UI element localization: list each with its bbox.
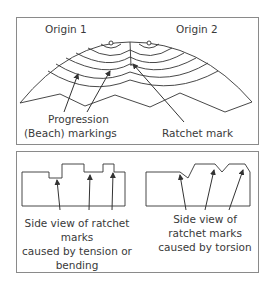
tension-label-3: caused by tension or	[22, 245, 132, 257]
tension-label-1: Side view of ratchet	[25, 217, 130, 229]
tension-arrow-3	[112, 173, 113, 210]
ratchet-line	[130, 42, 131, 66]
origin-1-marker	[109, 41, 113, 45]
torsion-arrow-3	[229, 170, 243, 210]
progression-label-line1: Progression	[48, 113, 109, 125]
bottom-panel: Side view of ratchet marks caused by ten…	[17, 152, 259, 273]
progression-label-line2: (Beach) markings	[24, 127, 117, 139]
beach-marks-origin-2	[130, 44, 196, 70]
fracture-surface-outline	[20, 42, 252, 112]
progression-arrow-1	[64, 74, 78, 112]
top-panel: Origin 1 Origin 2 Progression	[17, 18, 259, 145]
torsion-arrow-2	[205, 170, 214, 210]
ratchet-label: Ratchet mark	[162, 127, 234, 139]
tension-label-2: marks	[61, 231, 94, 243]
torsion-side-view	[146, 164, 250, 206]
origin-1-label: Origin 1	[45, 23, 87, 35]
fracture-diagram: Origin 1 Origin 2 Progression	[0, 0, 271, 286]
tension-arrow-2	[89, 175, 90, 210]
torsion-label-2: ratchet marks	[168, 227, 242, 239]
tension-arrow-1	[57, 180, 60, 210]
origin-2-label: Origin 2	[176, 23, 218, 35]
origin-2-marker	[147, 41, 151, 45]
top-frame	[17, 18, 259, 145]
ratchet-arrow	[133, 64, 184, 122]
torsion-label-3: caused by torsion	[158, 241, 251, 253]
torsion-label-1: Side view of	[173, 213, 237, 225]
tension-label-4: bending	[56, 259, 99, 271]
tension-side-view	[22, 164, 125, 206]
torsion-arrow-1	[180, 175, 186, 210]
